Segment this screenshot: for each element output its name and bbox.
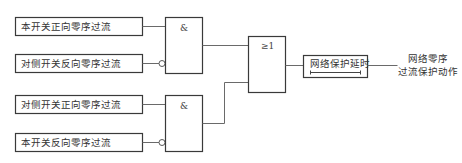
input-label: 本开关正向零序过流 [21,21,111,32]
input-box-local-reverse-zero-seq-overcurrent: 本开关反向零序过流 [16,134,143,152]
delay-label: 网络保护延时 [310,58,370,69]
logic-diagram: 本开关正向零序过流 对侧开关反向零序过流 对侧开关正向零序过流 本开关反向零序过… [0,0,462,163]
output-line-1: 网络零序 [408,53,448,64]
input-label: 对侧开关反向零序过流 [21,58,121,69]
negation-bubble-icon [159,140,165,146]
negation-bubble-icon [159,61,165,67]
or-gate: ≥1 [249,37,286,93]
and-gate-1: & [166,18,203,74]
input-box-remote-reverse-zero-seq-overcurrent: 对侧开关反向零序过流 [16,55,143,73]
input-label: 本开关反向零序过流 [21,137,111,148]
output-line-2: 过流保护动作 [398,66,458,77]
output-label: 网络零序 过流保护动作 [398,53,458,77]
input-box-remote-forward-zero-seq-overcurrent: 对侧开关正向零序过流 [16,96,143,114]
or-symbol: ≥1 [261,41,274,51]
input-label: 对侧开关正向零序过流 [21,99,121,110]
wire-and2-to-or [203,83,249,124]
and-symbol: & [180,23,188,33]
and-symbol: & [180,101,188,111]
delay-block: 网络保护延时 [304,56,371,78]
input-box-local-forward-zero-seq-overcurrent: 本开关正向零序过流 [16,18,143,36]
and-gate-2: & [166,96,203,152]
